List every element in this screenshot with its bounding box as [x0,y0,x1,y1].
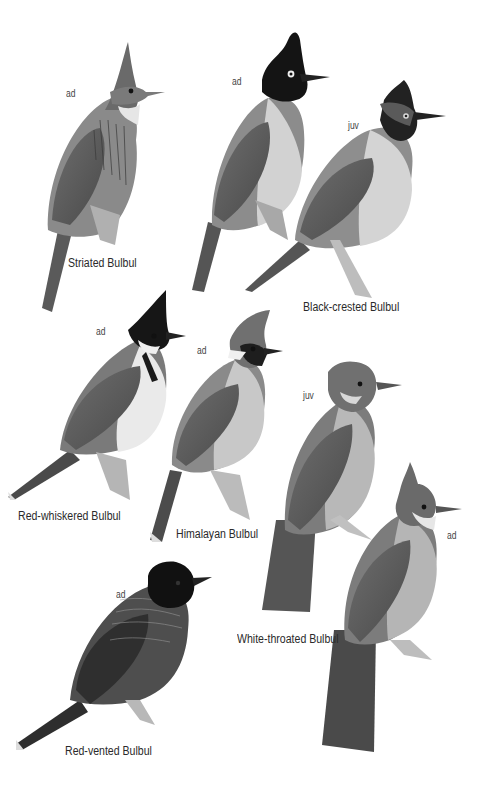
striated-bulbul-ad [42,42,165,312]
age-label-himalayan-ad: ad [197,345,206,356]
species-name-red-whiskered-bulbul: Red-whiskered Bulbul [18,509,121,523]
red-vented-bulbul-ad [16,562,212,750]
species-name-red-vented-bulbul: Red-vented Bulbul [65,744,152,758]
species-name-striated-bulbul: Striated Bulbul [68,256,137,270]
age-label-red-whiskered-ad: ad [96,326,105,337]
bulbul-illustration-plate: ad ad juv ad ad juv ad ad Striated Bulbu… [0,0,497,788]
red-whiskered-bulbul-ad [8,290,186,500]
age-label-red-vented-ad: ad [116,589,125,600]
species-name-white-throated-bulbul: White-throated Bulbul [237,632,339,646]
bird-illustrations [0,0,497,788]
age-label-striated-ad: ad [66,88,75,99]
age-label-white-throated-juv: juv [303,390,314,401]
age-label-white-throated-ad: ad [447,530,456,541]
age-label-black-crested-juv: juv [348,120,359,131]
himalayan-bulbul-ad [150,310,283,542]
black-crested-bulbul-ad [192,33,330,293]
age-label-black-crested-ad: ad [232,76,241,87]
species-name-black-crested-bulbul: Black-crested Bulbul [303,300,399,314]
species-name-himalayan-bulbul: Himalayan Bulbul [176,527,258,541]
